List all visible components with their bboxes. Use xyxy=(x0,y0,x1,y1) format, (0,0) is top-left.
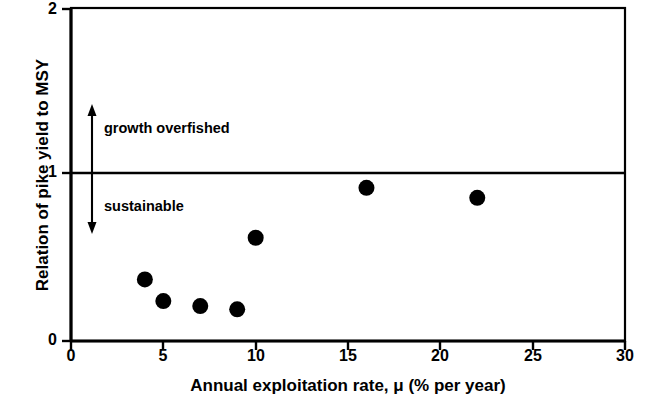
data-point xyxy=(248,230,264,246)
x-tick-label-15: 15 xyxy=(328,347,368,365)
scatter-chart-figure: 0 1 2 0 5 10 15 20 25 30 growth overfish… xyxy=(0,0,647,412)
data-point xyxy=(358,180,374,196)
annotation-growth-overfished: growth overfished xyxy=(104,120,230,136)
x-axis-title: Annual exploitation rate, μ (% per year) xyxy=(71,376,625,396)
plot-frame xyxy=(71,8,625,341)
data-point xyxy=(229,301,245,317)
x-tick-label-5: 5 xyxy=(143,347,183,365)
y-axis-title: Relation of pike yield to MSY xyxy=(28,5,58,345)
x-tick-label-30: 30 xyxy=(605,347,645,365)
data-point xyxy=(469,190,485,206)
x-tick-label-25: 25 xyxy=(513,347,553,365)
x-tick-label-10: 10 xyxy=(236,347,276,365)
x-tick-label-20: 20 xyxy=(420,347,460,365)
data-point xyxy=(155,293,171,309)
data-point xyxy=(192,298,208,314)
annotation-sustainable: sustainable xyxy=(104,198,184,214)
x-tick-label-0: 0 xyxy=(51,347,91,365)
data-point xyxy=(137,271,153,287)
